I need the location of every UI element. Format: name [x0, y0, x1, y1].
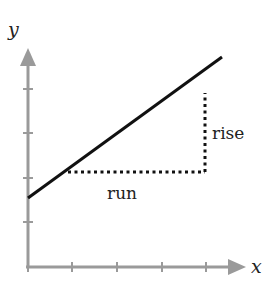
x-axis-label: x	[251, 255, 262, 277]
x-axis-arrow-icon	[228, 259, 246, 275]
x-axis	[26, 259, 246, 275]
run-label: run	[107, 183, 137, 203]
y-axis-arrow-icon	[20, 48, 36, 66]
rise-label: rise	[212, 123, 244, 143]
y-axis	[20, 48, 36, 268]
slope-diagram: y x run rise	[0, 0, 279, 286]
y-axis-label: y	[7, 18, 19, 40]
slope-line	[28, 57, 222, 198]
